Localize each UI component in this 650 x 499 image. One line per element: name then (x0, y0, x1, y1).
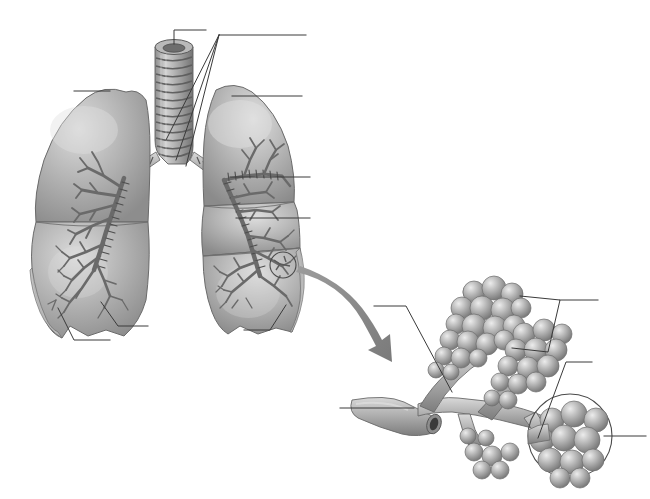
left-lung (30, 89, 150, 338)
right-lung (202, 85, 304, 334)
alveoli-panel (351, 276, 612, 488)
alveolar-sac-lower-centre (460, 428, 519, 479)
figure-canvas (0, 0, 650, 499)
lungs-panel (30, 40, 304, 339)
trachea (155, 40, 193, 165)
alveoli-magnified-detail (528, 394, 612, 488)
respiratory-system-illustration (0, 0, 650, 499)
zoom-arrow (296, 266, 392, 362)
